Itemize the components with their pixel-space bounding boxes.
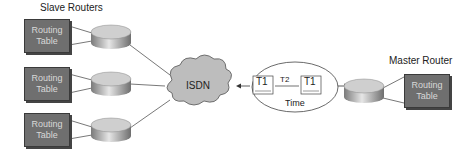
routing-table-text: Routing [31,25,62,36]
slave-router-icon [91,25,131,49]
routing-table-text: Routing [31,73,62,84]
routing-table-slave-3: RoutingTable [24,113,70,147]
routing-table-slave-1: RoutingTable [24,19,70,53]
t1-left-label: T1 [256,76,268,87]
slave-routers-label: Slave Routers [40,2,103,13]
slave-router-icon [91,118,131,142]
routing-table-text: Table [36,84,58,95]
routing-table-text: Table [416,91,438,102]
routing-table-text: Routing [31,119,62,130]
time-label: Time [285,98,305,108]
slave-router-icon [91,72,131,96]
master-router-label: Master Router [389,55,452,66]
routing-table-text: Table [36,130,58,141]
t1-right-label: T1 [304,76,316,87]
master-router-icon [344,79,384,103]
routing-table-master: RoutingTable [404,74,450,108]
routing-table-slave-2: RoutingTable [24,67,70,101]
routing-table-text: Routing [411,80,442,91]
isdn-label: ISDN [186,80,210,91]
diagram-canvas [0,0,473,158]
routing-table-text: Table [36,36,58,47]
t2-label: T2 [280,75,289,84]
